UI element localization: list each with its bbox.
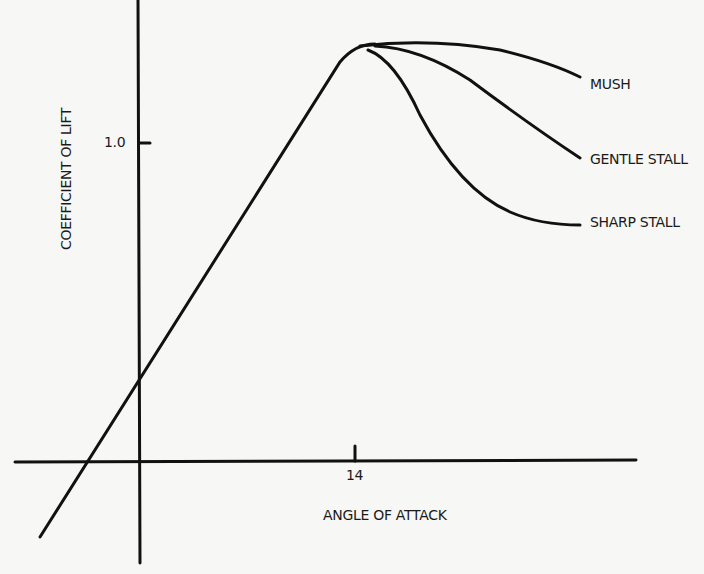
legend-gentle-stall: GENTLE STALL — [590, 151, 688, 167]
y-tick-label: 1.0 — [104, 134, 125, 150]
x-axis — [15, 460, 636, 462]
lift-curve-chart: COEFFICIENT OF LIFT 1.0 14 ANGLE OF ATTA… — [0, 0, 704, 574]
y-axis — [138, 0, 140, 563]
legend-mush: MUSH — [590, 76, 631, 92]
x-axis-label: ANGLE OF ATTACK — [323, 507, 447, 523]
y-axis-label: COEFFICIENT OF LIFT — [58, 108, 74, 250]
x-tick-label: 14 — [346, 467, 363, 483]
legend-sharp-stall: SHARP STALL — [590, 214, 680, 230]
